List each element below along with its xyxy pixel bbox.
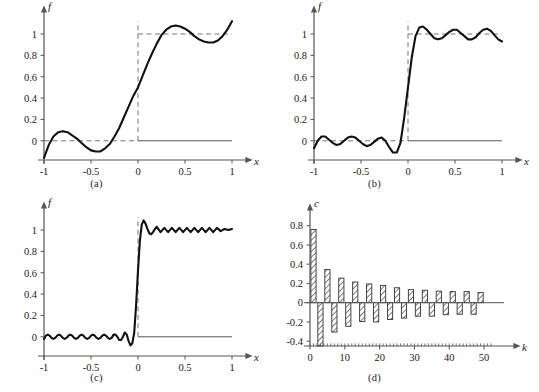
svg-text:0: 0 — [135, 166, 140, 177]
gibbs-phenomenon-figure: -1-0.500.5100.20.40.60.81xf (a) -1-0.500… — [0, 0, 539, 392]
svg-text:20: 20 — [374, 352, 385, 363]
svg-text:-1: -1 — [40, 166, 49, 177]
svg-text:0.5: 0.5 — [178, 166, 191, 177]
svg-text:-0.5: -0.5 — [353, 166, 370, 177]
svg-text:0.6: 0.6 — [24, 268, 37, 279]
panel-a-plot: -1-0.500.5100.20.40.60.81xf — [0, 0, 269, 196]
svg-text:x: x — [253, 155, 259, 167]
svg-text:0.4: 0.4 — [24, 289, 38, 300]
svg-text:0: 0 — [32, 136, 37, 147]
svg-text:1: 1 — [229, 166, 234, 177]
svg-text:0.6: 0.6 — [24, 72, 37, 83]
svg-text:-0.4: -0.4 — [286, 336, 303, 347]
svg-text:0.4: 0.4 — [290, 259, 304, 270]
panel-c-caption: (c) — [0, 372, 231, 383]
svg-text:30: 30 — [409, 352, 420, 363]
svg-text:f: f — [48, 196, 53, 208]
svg-text:0: 0 — [302, 136, 307, 147]
svg-text:x: x — [523, 155, 529, 167]
svg-text:x: x — [253, 351, 259, 363]
svg-text:0.8: 0.8 — [294, 50, 307, 61]
svg-text:0: 0 — [405, 166, 410, 177]
svg-text:0.5: 0.5 — [448, 166, 461, 177]
svg-text:0: 0 — [298, 297, 303, 308]
panel-a-caption: (a) — [0, 178, 231, 189]
svg-text:0.6: 0.6 — [290, 240, 303, 251]
svg-text:0.8: 0.8 — [24, 246, 37, 257]
svg-text:-0.2: -0.2 — [286, 317, 303, 328]
svg-text:1: 1 — [302, 29, 307, 40]
svg-text:c: c — [314, 197, 319, 209]
panel-b-caption: (b) — [240, 178, 509, 189]
svg-text:-1: -1 — [310, 166, 319, 177]
svg-text:1: 1 — [499, 166, 504, 177]
svg-text:f: f — [48, 0, 53, 12]
panel-b-plot: -1-0.500.5100.20.40.60.81xf — [270, 0, 539, 196]
panel-d: 01020304050-0.4-0.200.20.40.60.8kc (d) — [270, 196, 539, 392]
svg-text:0: 0 — [32, 332, 37, 343]
svg-text:40: 40 — [444, 352, 455, 363]
svg-text:0.6: 0.6 — [294, 72, 307, 83]
panel-b: -1-0.500.5100.20.40.60.81xf (b) — [270, 0, 539, 196]
panel-d-caption: (d) — [240, 372, 509, 383]
svg-text:0.8: 0.8 — [290, 220, 303, 231]
svg-text:0.2: 0.2 — [24, 310, 37, 321]
svg-text:1: 1 — [32, 225, 37, 236]
svg-text:0.4: 0.4 — [294, 93, 308, 104]
svg-text:-0.5: -0.5 — [83, 166, 100, 177]
svg-text:0: 0 — [307, 352, 312, 363]
svg-text:1: 1 — [32, 29, 37, 40]
svg-text:0.2: 0.2 — [294, 114, 307, 125]
svg-text:k: k — [522, 341, 528, 353]
svg-text:0.8: 0.8 — [24, 50, 37, 61]
panel-d-plot: 01020304050-0.4-0.200.20.40.60.8kc — [270, 196, 539, 392]
svg-text:50: 50 — [479, 352, 490, 363]
panel-c: -1-0.500.5100.20.40.60.81xf (c) — [0, 196, 269, 392]
panel-a: -1-0.500.5100.20.40.60.81xf (a) — [0, 0, 269, 196]
panel-c-plot: -1-0.500.5100.20.40.60.81xf — [0, 196, 269, 392]
svg-text:0.2: 0.2 — [290, 278, 303, 289]
svg-text:0.4: 0.4 — [24, 93, 38, 104]
svg-text:10: 10 — [340, 352, 351, 363]
svg-text:0.2: 0.2 — [24, 114, 37, 125]
svg-text:f: f — [318, 0, 323, 12]
